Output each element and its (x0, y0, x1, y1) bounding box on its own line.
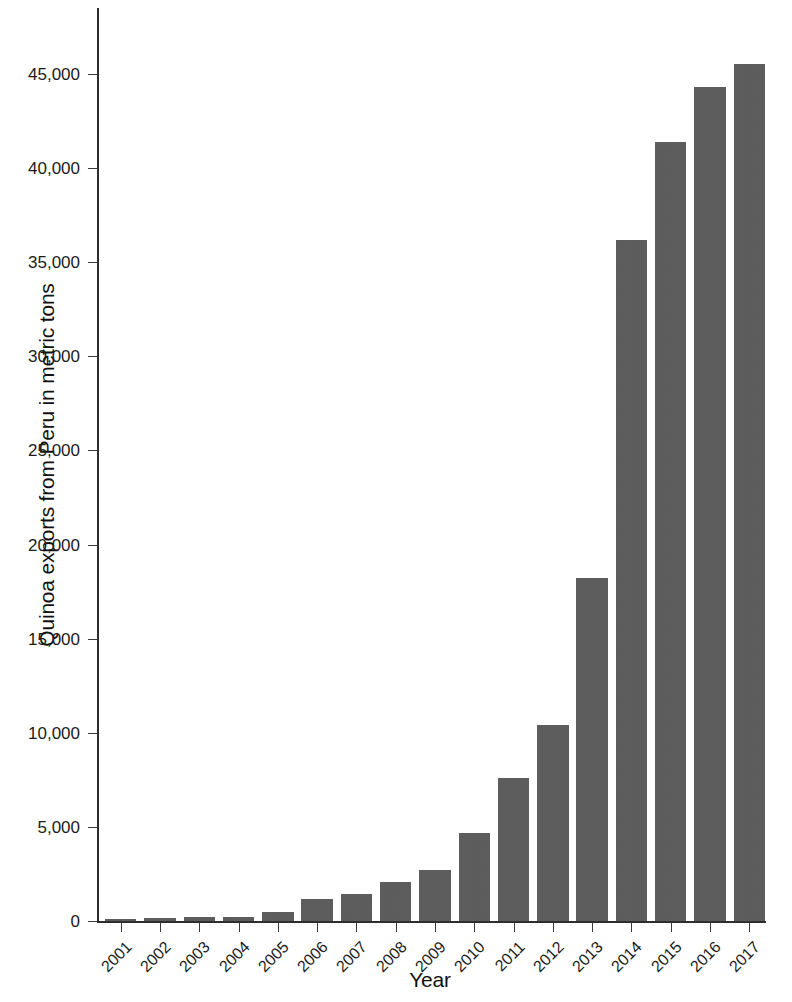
bar (184, 917, 215, 921)
y-axis-tick (88, 545, 97, 546)
y-axis-tick (88, 827, 97, 828)
y-axis-tick (88, 921, 97, 922)
bar (576, 578, 607, 921)
x-axis-tick (553, 923, 554, 932)
x-axis-tick (356, 923, 357, 932)
y-axis-title: Quinoa exports from Peru in metric tons (30, 0, 64, 930)
x-axis-tick (592, 923, 593, 932)
y-axis-tick (88, 639, 97, 640)
bar (341, 894, 372, 921)
y-axis-tick (88, 450, 97, 451)
y-axis-tick-label: 10,000 (28, 724, 80, 744)
bar (380, 882, 411, 921)
y-axis-tick-label: 5,000 (37, 818, 80, 838)
x-axis-tick (396, 923, 397, 932)
x-axis-tick (317, 923, 318, 932)
bar (459, 833, 490, 921)
bar (655, 142, 686, 921)
x-axis-tick (435, 923, 436, 932)
y-axis-tick-label: 30,000 (28, 347, 80, 367)
x-axis-tick (160, 923, 161, 932)
bar (616, 240, 647, 921)
y-axis-tick (88, 262, 97, 263)
x-axis-tick (749, 923, 750, 932)
y-axis-tick-label: 40,000 (28, 159, 80, 179)
y-axis-tick-label: 20,000 (28, 536, 80, 556)
y-axis-tick-label: 15,000 (28, 630, 80, 650)
bar (105, 919, 136, 921)
bar (498, 778, 529, 921)
bar-chart: Quinoa exports from Peru in metric tons … (0, 0, 792, 1002)
x-axis-tick (474, 923, 475, 932)
x-axis-tick (199, 923, 200, 932)
y-axis-tick-label: 35,000 (28, 253, 80, 273)
bar (262, 912, 293, 921)
bar (144, 918, 175, 921)
x-axis-tick (514, 923, 515, 932)
bar (223, 917, 254, 921)
bar (537, 725, 568, 921)
y-axis-tick-label: 25,000 (28, 441, 80, 461)
bars-layer (98, 8, 766, 921)
x-axis-title: Year (98, 968, 762, 992)
bar (734, 64, 765, 921)
x-axis-tick (278, 923, 279, 932)
y-axis-tick (88, 74, 97, 75)
x-axis-tick (239, 923, 240, 932)
y-axis-tick (88, 356, 97, 357)
x-axis-tick (710, 923, 711, 932)
y-axis-tick (88, 168, 97, 169)
y-axis-tick (88, 733, 97, 734)
bar (694, 87, 725, 921)
y-axis-tick-label: 45,000 (28, 65, 80, 85)
bar (419, 870, 450, 921)
x-axis-tick (671, 923, 672, 932)
bar (301, 899, 332, 921)
y-axis-tick-label: 0 (71, 912, 80, 932)
x-axis-line (98, 921, 766, 923)
x-axis-tick (121, 923, 122, 932)
x-axis-tick (631, 923, 632, 932)
